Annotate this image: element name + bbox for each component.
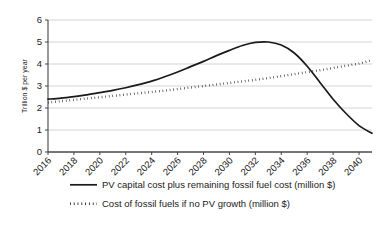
chart-canvas: 0123456 20162018202020222024202620282030… [0, 0, 384, 226]
legend-label-2: Cost of fossil fuels if no PV growth (mi… [102, 198, 290, 209]
y-axis-title: Trillion $ per year [21, 58, 29, 112]
chart-figure: 0123456 20162018202020222024202620282030… [0, 0, 384, 226]
y-tick-label: 4 [37, 58, 42, 69]
y-tick-label: 1 [37, 124, 42, 135]
y-tick-label: 6 [37, 14, 42, 25]
y-tick-label: 3 [37, 80, 42, 91]
y-axis-title-text: Trillion $ per year [21, 58, 29, 112]
chart-background [0, 0, 384, 226]
y-tick-label: 0 [37, 146, 42, 157]
y-tick-label: 2 [37, 102, 42, 113]
chart-svg: 0123456 20162018202020222024202620282030… [0, 0, 384, 226]
legend-label-1: PV capital cost plus remaining fossil fu… [102, 179, 335, 190]
y-tick-label: 5 [37, 36, 42, 47]
